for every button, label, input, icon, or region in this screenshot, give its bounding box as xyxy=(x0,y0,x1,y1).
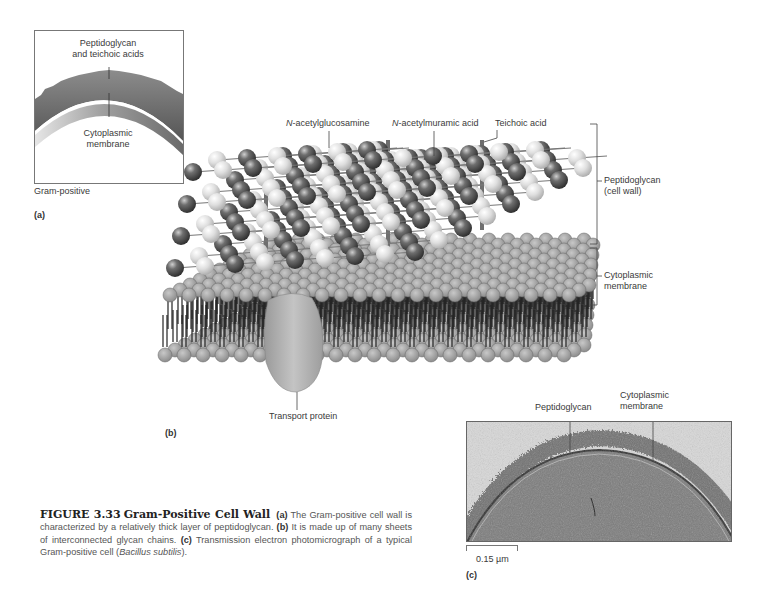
caption-part-label: (c) xyxy=(181,535,192,545)
label-text: -acetylglucosamine xyxy=(293,118,370,128)
caption-part-label: (b) xyxy=(277,522,289,532)
figure-title: Gram-Positive Cell Wall xyxy=(124,508,271,521)
tem-image xyxy=(467,422,731,541)
panel-c-letter: (c) xyxy=(466,570,477,580)
figure-caption: FIGURE 3.33 Gram-Positive Cell Wall (a) … xyxy=(40,509,412,558)
label-text: -acetylmuramic acid xyxy=(399,118,479,128)
label-line: membrane xyxy=(620,401,669,412)
label-n-acetylmuramic-acid: N-acetylmuramic acid xyxy=(392,118,479,129)
label-cytoplasmic-membrane: Cytoplasmic membrane xyxy=(604,270,653,292)
label-line: Cytoplasmic xyxy=(604,270,653,281)
scale-bar xyxy=(466,545,518,551)
tem-micrograph xyxy=(466,421,732,542)
label-peptidoglycan-cell-wall: Peptidoglycan (cell wall) xyxy=(604,175,661,197)
label-transport-protein: Transport protein xyxy=(269,411,337,422)
panel-c-label-peptidoglycan: Peptidoglycan xyxy=(535,402,592,413)
caption-text: ). xyxy=(181,547,187,557)
label-line: Peptidoglycan xyxy=(604,175,661,186)
caption-species: Bacillus subtilis xyxy=(119,547,181,557)
label-teichoic-acid: Teichoic acid xyxy=(495,118,547,129)
label-line: membrane xyxy=(604,281,653,292)
panel-b-letter: (b) xyxy=(165,428,177,438)
caption-part-label: (a) xyxy=(276,510,287,520)
label-n-acetylglucosamine: N-acetylglucosamine xyxy=(286,118,370,129)
label-line: (cell wall) xyxy=(604,186,661,197)
panel-c-label-membrane: Cytoplasmic membrane xyxy=(620,390,669,412)
scale-bar-label: 0.15 µm xyxy=(476,554,509,565)
label-line: Cytoplasmic xyxy=(620,390,669,401)
figure-number: FIGURE 3.33 xyxy=(40,508,121,521)
